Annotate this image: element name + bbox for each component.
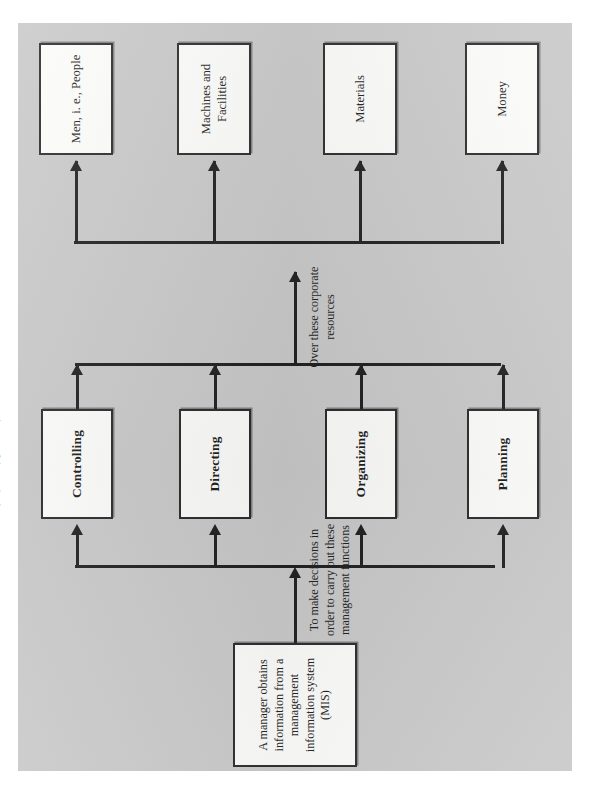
branch-to-money (501, 161, 504, 244)
connector-functions-to-resources (294, 272, 297, 366)
resource-label-men-people: Men, i. e., People (68, 49, 84, 150)
function-box-directing: Directing (179, 409, 251, 519)
arrowhead-functions-to-resources (289, 271, 301, 282)
resource-box-machines-facilities: Machines and Facilities (177, 43, 251, 155)
controlling-reference-note: (Refer to figure 1.2) (0, 409, 1, 515)
arrowhead-planning-in (497, 524, 509, 535)
functions-input-bus (75, 565, 495, 568)
function-box-organizing: Organizing (325, 409, 397, 519)
arrowhead-directing-in (209, 524, 221, 535)
function-label-planning: Planning (494, 432, 511, 497)
source-box: A manager obtains information from a man… (233, 643, 357, 767)
resource-box-money: Money (465, 43, 539, 155)
arrowhead-machines-in (208, 160, 220, 171)
arrowhead-organizing-in (355, 524, 367, 535)
resource-box-materials: Materials (323, 43, 397, 155)
connector-source-to-functions (294, 575, 297, 643)
functions-output-bus (75, 363, 501, 366)
branch-to-controlling (76, 532, 79, 568)
source-box-label: A manager obtains information from a man… (256, 645, 334, 765)
resource-label-machines-facilities: Machines and Facilities (198, 45, 230, 153)
resource-label-materials: Materials (352, 69, 368, 129)
resource-box-men-people: Men, i. e., People (39, 43, 113, 155)
resource-label-money: Money (494, 75, 510, 123)
function-box-planning: Planning (467, 409, 539, 519)
label-to-resources: Over these corporate resources (307, 265, 338, 369)
diagram-canvas: A manager obtains information from a man… (21, 27, 569, 767)
scanned-page: A manager obtains information from a man… (18, 23, 572, 771)
branch-to-materials (359, 161, 362, 244)
branch-to-men-people-b (75, 161, 78, 207)
function-box-controlling: Controlling (41, 409, 113, 519)
arrowhead-materials-in (354, 160, 366, 171)
arrowhead-money-in (496, 160, 508, 171)
label-to-functions: To make decisions in order to carry out … (307, 521, 354, 639)
resources-input-bus (74, 241, 500, 244)
branch-to-machines (213, 161, 216, 244)
function-label-organizing: Organizing (352, 425, 369, 504)
branch-to-planning (502, 532, 505, 568)
arrowhead-controlling-in (71, 524, 83, 535)
function-label-controlling: Controlling (68, 424, 85, 504)
arrowhead-source-to-functions (289, 567, 301, 578)
branch-to-organizing (360, 532, 363, 568)
branch-to-directing (214, 532, 217, 568)
function-label-directing: Directing (206, 430, 223, 497)
